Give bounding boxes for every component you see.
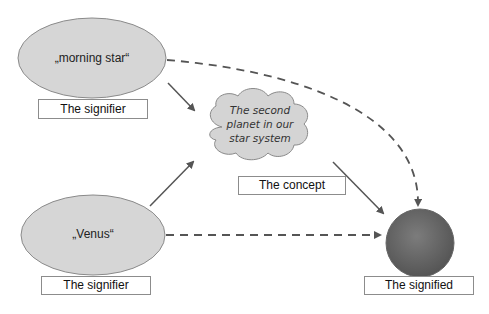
concept-label: The concept [238,176,346,195]
signified-label: The signified [364,276,474,295]
arrow-top-signifier-to-concept [168,83,194,110]
signifier-top-text: „morning star“ [40,51,144,65]
diagram-canvas [0,0,489,314]
concept-line-3: star system [220,131,300,145]
concept-text: The second planet in our star system [220,103,300,145]
signifier-bottom-text: „Venus“ [45,227,141,241]
concept-line-2: planet in our [220,117,300,131]
signifier-top-label: The signifier [38,99,148,119]
signified-planet-icon [386,209,454,277]
signifier-bottom-label: The signifier [41,276,151,295]
arrow-bottom-signifier-to-concept [150,162,193,206]
concept-line-1: The second [220,103,300,117]
